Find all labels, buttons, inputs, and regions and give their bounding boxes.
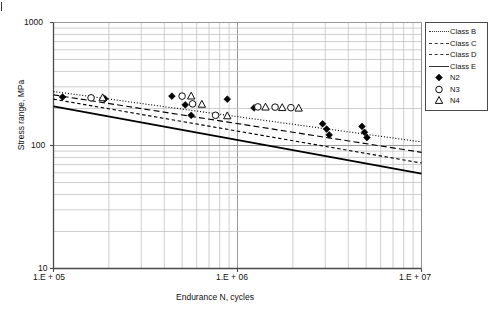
data-point-n3 <box>88 95 95 102</box>
x-tick-label-1e07: 1.E + 07 <box>399 272 431 282</box>
legend-item-class-c[interactable]: Class C <box>428 38 485 50</box>
legend-swatch-open-circle-icon <box>428 84 450 95</box>
data-point-n4 <box>262 103 269 110</box>
data-point-n2 <box>168 93 175 100</box>
data-point-n3 <box>212 112 219 119</box>
legend-item-class-b[interactable]: Class B <box>428 26 485 38</box>
data-point-n2 <box>182 101 189 108</box>
data-point-n4 <box>295 104 302 111</box>
legend-label: N2 <box>450 72 460 83</box>
legend-label: Class E <box>450 61 476 72</box>
data-point-n2 <box>224 96 231 103</box>
y-tick-label-1000: 1000 <box>24 17 43 27</box>
legend-label: Class C <box>450 38 477 49</box>
chart-container: 1000 100 10 1.E + 05 1.E + 06 1.E + 07 S… <box>0 0 495 315</box>
legend-item-class-d[interactable]: Class D <box>428 49 485 61</box>
data-point-n3 <box>179 93 186 100</box>
data-point-n3 <box>288 104 295 111</box>
data-point-n3 <box>189 101 196 108</box>
legend-label: Class D <box>450 49 477 60</box>
legend-item-n4[interactable]: N4 <box>428 95 485 107</box>
legend-item-class-e[interactable]: Class E <box>428 61 485 73</box>
legend-swatch-solid-line-icon <box>428 61 450 72</box>
grid-lines <box>54 23 422 269</box>
x-axis-label: Endurance N, cycles <box>0 292 430 302</box>
chart-plot-area <box>0 0 495 315</box>
x-tick-label-1e06: 1.E + 06 <box>216 272 248 282</box>
legend-label: N4 <box>450 95 460 106</box>
legend-marker-open-circle-icon <box>436 86 443 93</box>
data-point-n2 <box>188 112 195 119</box>
legend-swatch-filled-diamond-icon <box>428 72 450 83</box>
data-point-n4 <box>224 112 231 119</box>
legend-item-n3[interactable]: N3 <box>428 84 485 96</box>
legend-item-n2[interactable]: N2 <box>428 72 485 84</box>
y-axis-label: Stress range, MPa <box>16 70 26 160</box>
data-point-n3 <box>272 104 279 111</box>
legend-swatch-dotted-line-icon <box>428 26 450 37</box>
legend-label: N3 <box>450 84 460 95</box>
legend-swatch-short-dashed-line-icon <box>428 49 450 60</box>
data-point-n4 <box>198 100 205 107</box>
data-point-n4 <box>279 104 286 111</box>
data-point-n3 <box>255 104 262 111</box>
legend-swatch-dashed-line-icon <box>428 38 450 49</box>
chart-legend: Class BClass CClass DClass EN2N3N4 <box>425 22 488 111</box>
legend-marker-filled-diamond-icon <box>436 74 443 81</box>
x-tick-label-1e05: 1.E + 05 <box>33 272 65 282</box>
legend-marker-open-triangle-icon <box>435 97 442 104</box>
data-point-n2 <box>59 94 66 101</box>
legend-label: Class B <box>450 26 476 37</box>
data-point-n4 <box>187 92 194 99</box>
legend-swatch-open-triangle-icon <box>428 95 450 106</box>
y-tick-label-100: 100 <box>31 140 45 150</box>
